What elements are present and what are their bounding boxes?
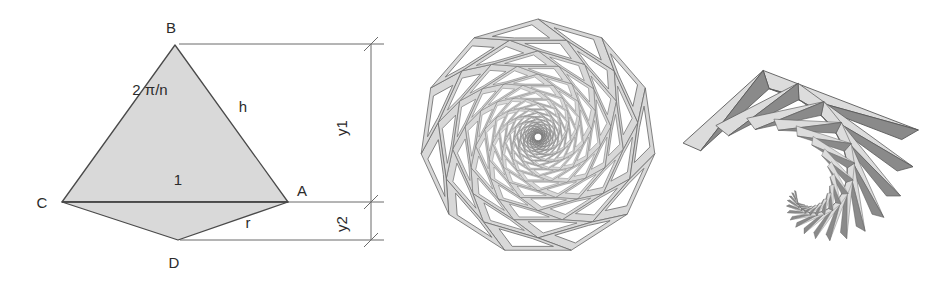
rosette-cell [474,19,566,40]
panel-construction: y1y2ABCD2 π/nh1r [0,0,400,283]
edge-label-base-unit: 1 [174,171,182,188]
dimension-label-y1: y1 [333,120,350,136]
vertex-label-b: B [166,19,176,36]
dimension-y2: y2 [333,195,378,247]
vertex-label-d: D [169,254,180,271]
panel-rosette [400,0,680,283]
dimension-y1: y1 [333,37,378,209]
spiral-figure [676,0,926,283]
rosette-rings [421,19,655,250]
vertex-label-a: A [297,182,307,199]
spiral-band [683,70,918,240]
vertex-label-c: C [37,194,48,211]
lower-triangle-ACD [62,202,288,240]
rosette-figure [400,0,680,283]
edge-label-apex-angle: 2 π/n [132,81,167,98]
dimension-label-y2: y2 [333,216,350,232]
construction-diagram: y1y2ABCD2 π/nh1r [0,0,400,283]
edge-label-slant-height: h [239,98,247,115]
edge-label-circumradius: r [246,214,251,231]
figure-sheet: y1y2ABCD2 π/nh1r [0,0,926,283]
panel-spiral [676,0,926,283]
